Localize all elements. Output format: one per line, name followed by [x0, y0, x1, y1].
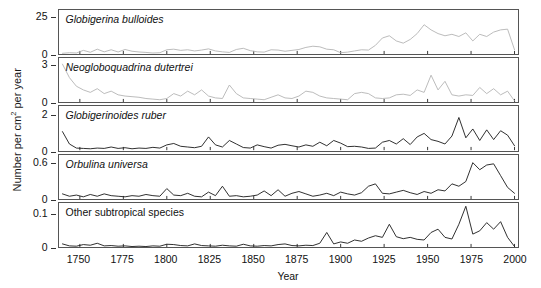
y-axis-tick-label: 0.1	[12, 207, 48, 219]
x-axis-tick-label: 1925	[362, 253, 406, 265]
x-axis-tick-label: 1750	[56, 253, 100, 265]
y-axis-tick-mark	[51, 103, 56, 104]
panel-title: Globigerinoides ruber	[66, 109, 166, 121]
y-axis-tick-mark	[51, 152, 56, 153]
y-axis-tick-label: 25	[12, 10, 48, 22]
x-axis-tick-label: 1975	[449, 253, 493, 265]
figure-container: Number per cm2 per year 1750177518001825…	[0, 0, 541, 288]
y-axis-tick-label: 2	[12, 108, 48, 120]
y-axis-tick-label: 3	[12, 58, 48, 70]
x-axis-tick-label: 2000	[493, 253, 537, 265]
y-axis-tick-mark	[51, 17, 56, 18]
panel-title: Globigerina bulloides	[66, 13, 164, 25]
x-axis-tick-label: 1875	[275, 253, 319, 265]
x-axis-tick-label: 1900	[318, 253, 362, 265]
panel-title: Neogloboquadrina dutertrei	[66, 61, 193, 73]
y-axis-tick-label: 0	[12, 241, 48, 253]
x-axis-tick-label: 1850	[231, 253, 275, 265]
panel-title: Other subtropical species	[66, 206, 184, 218]
x-axis-tick-label: 1825	[187, 253, 231, 265]
y-axis-tick-label: 0.6	[12, 156, 48, 168]
y-axis-tick-mark	[51, 65, 56, 66]
y-axis-tick-label: 0	[12, 145, 48, 157]
y-axis-tick-mark	[51, 55, 56, 56]
x-axis-tick-label: 1775	[100, 253, 144, 265]
y-axis-tick-mark	[51, 200, 56, 201]
y-axis-tick-mark	[51, 248, 56, 249]
y-axis-tick-mark	[51, 163, 56, 164]
x-axis-tick-label: 1950	[406, 253, 450, 265]
y-axis-tick-mark	[51, 214, 56, 215]
y-axis-tick-label: 0	[12, 193, 48, 205]
panel-title: Orbulina universa	[66, 158, 148, 170]
x-axis-title: Year	[36, 270, 541, 282]
x-axis-tick-label: 1800	[144, 253, 188, 265]
y-axis-tick-label: 0	[12, 96, 48, 108]
y-axis-tick-mark	[51, 115, 56, 116]
